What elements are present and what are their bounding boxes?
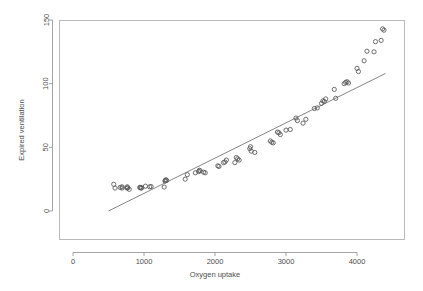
y-tick-label: 150 <box>42 14 51 27</box>
x-tick-label: 1000 <box>136 257 153 266</box>
figure-background <box>0 0 423 291</box>
y-axis-title: Expired ventilation <box>17 99 26 160</box>
x-tick-label: 0 <box>71 257 75 266</box>
x-tick-label: 2000 <box>207 257 224 266</box>
y-tick-label: 50 <box>42 143 51 151</box>
x-tick-label: 3000 <box>278 257 295 266</box>
y-tick-label: 100 <box>42 77 51 90</box>
x-axis-title: Oxygen uptake <box>190 270 240 279</box>
scatter-plot-figure: 050100150 01000200030004000 Oxygen uptak… <box>0 0 423 291</box>
chart-canvas: 050100150 01000200030004000 Oxygen uptak… <box>0 0 423 291</box>
x-tick-label: 4000 <box>349 257 366 266</box>
y-tick-label: 0 <box>42 209 51 213</box>
